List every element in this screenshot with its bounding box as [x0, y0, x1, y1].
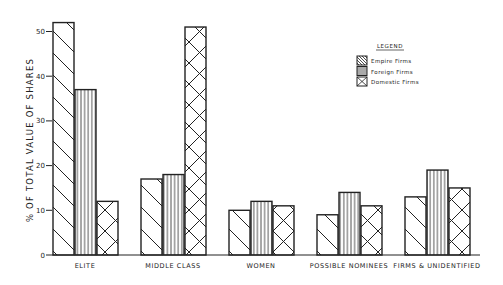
- x-category-label: WOMEN: [246, 262, 275, 270]
- bar-diagonal: [53, 23, 74, 255]
- legend-label: Domestic Firms: [371, 79, 419, 85]
- bar-vertical: [251, 201, 272, 255]
- vertical-swatch-icon: [357, 67, 367, 76]
- y-axis-label: % OF TOTAL VALUE OF SHARES: [25, 58, 35, 222]
- bar-crosshatch: [97, 201, 118, 255]
- bar-crosshatch: [449, 188, 470, 255]
- x-category-label: ELITE: [75, 262, 96, 270]
- diagonal-swatch-icon: [357, 56, 367, 65]
- legend-item: Domestic Firms: [357, 77, 419, 86]
- legend-item: Foreign Firms: [357, 67, 413, 76]
- x-axis-labels: ELITEMIDDLE CLASSWOMENPOSSIBLE NOMINEESF…: [75, 262, 481, 270]
- bar-crosshatch: [361, 206, 382, 255]
- bar-diagonal: [405, 197, 426, 255]
- bar-diagonal: [141, 179, 162, 255]
- y-tick-label: 40: [36, 73, 45, 81]
- legend-label: Empire Firms: [371, 58, 412, 65]
- bar-vertical: [427, 170, 448, 255]
- y-tick-label: 50: [36, 28, 45, 36]
- bar-diagonal: [229, 210, 250, 255]
- legend-title: LEGEND: [377, 43, 403, 49]
- bar-crosshatch: [185, 27, 206, 255]
- x-category-label: MIDDLE CLASS: [145, 262, 201, 270]
- y-tick-label: 10: [36, 207, 45, 215]
- bar-diagonal: [317, 215, 338, 255]
- bar-vertical: [163, 175, 184, 255]
- bar-vertical: [75, 90, 96, 255]
- legend-item: Empire Firms: [357, 56, 412, 65]
- y-tick-label: 20: [36, 162, 45, 170]
- bar-crosshatch: [273, 206, 294, 255]
- bar-chart: 01020304050 ELITEMIDDLE CLASSWOMENPOSSIB…: [0, 0, 503, 285]
- y-tick-label: 30: [36, 117, 45, 125]
- legend: LEGEND Empire FirmsForeign FirmsDomestic…: [357, 43, 419, 86]
- legend-label: Foreign Firms: [371, 69, 413, 76]
- bar-vertical: [339, 192, 360, 255]
- x-category-label: POSSIBLE NOMINEES: [310, 262, 388, 270]
- x-category-label: FIRMS & UNIDENTIFIED: [393, 262, 480, 270]
- y-tick-label: 0: [41, 252, 45, 260]
